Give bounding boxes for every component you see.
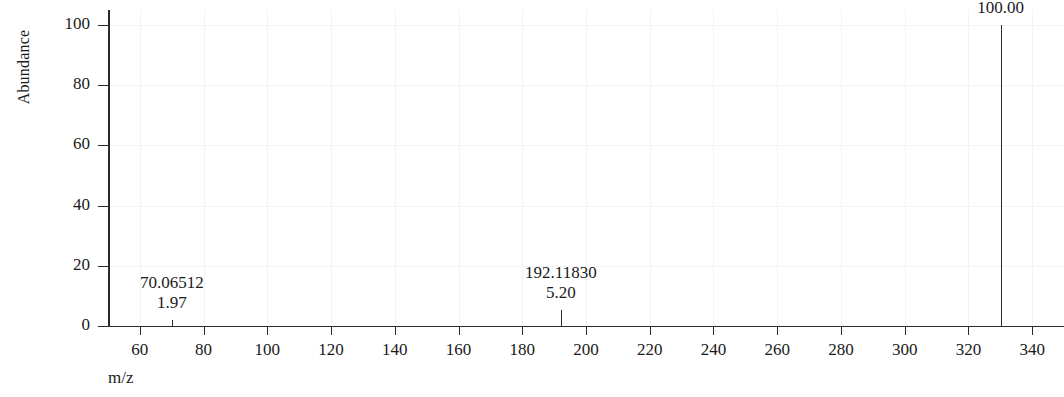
- y-axis-tick: [98, 266, 108, 267]
- x-axis-tick: [267, 326, 268, 335]
- y-axis-tick: [98, 326, 108, 327]
- x-axis-tick-label: 60: [105, 340, 175, 360]
- x-axis-title: m/z: [108, 368, 134, 388]
- x-axis-tick-label: 340: [997, 340, 1064, 360]
- x-axis-tick: [331, 326, 332, 335]
- x-axis-tick: [1032, 326, 1033, 335]
- x-axis-tick: [140, 326, 141, 335]
- y-axis-tick-label: 40: [30, 195, 90, 215]
- y-axis-tick: [98, 25, 108, 26]
- y-axis-tick: [98, 206, 108, 207]
- spectrum-peak: [1001, 25, 1002, 326]
- x-axis-tick: [777, 326, 778, 335]
- x-axis-tick: [586, 326, 587, 335]
- x-axis-tick-label: 220: [615, 340, 685, 360]
- x-axis-tick: [841, 326, 842, 335]
- y-axis-tick-label: 100: [30, 14, 90, 34]
- x-axis-tick-label: 320: [933, 340, 1003, 360]
- x-axis-tick: [204, 326, 205, 335]
- spectrum-peak: [561, 310, 562, 326]
- y-axis-tick-label: 80: [30, 74, 90, 94]
- x-axis-tick-label: 140: [360, 340, 430, 360]
- x-axis-tick: [968, 326, 969, 335]
- spectrum-peak: [172, 320, 173, 326]
- y-axis-tick-label: 0: [30, 315, 90, 335]
- mass-spectrum-chart: Abundance 020406080100 60801001201401601…: [0, 0, 1064, 397]
- x-axis-tick: [522, 326, 523, 335]
- y-axis-tick: [98, 85, 108, 86]
- peak-mz-value: 192.11830: [461, 263, 661, 283]
- x-axis-tick-label: 300: [870, 340, 940, 360]
- peak-label: 70.065121.97: [72, 273, 272, 313]
- x-axis-tick: [650, 326, 651, 335]
- y-axis-tick-label: 60: [30, 134, 90, 154]
- peak-abundance-value: 100.00: [901, 0, 1064, 18]
- x-axis-tick: [905, 326, 906, 335]
- x-axis-tick-label: 240: [678, 340, 748, 360]
- x-axis-tick: [713, 326, 714, 335]
- peak-abundance-value: 5.20: [461, 283, 661, 303]
- x-axis-tick-label: 180: [487, 340, 557, 360]
- y-axis-tick: [98, 145, 108, 146]
- y-axis-tick-label: 20: [30, 255, 90, 275]
- peak-mz-value: 70.06512: [72, 273, 272, 293]
- peak-label: 192.118305.20: [461, 263, 661, 303]
- x-axis-tick-label: 160: [424, 340, 494, 360]
- x-axis-tick-label: 100: [232, 340, 302, 360]
- x-axis-tick-label: 120: [296, 340, 366, 360]
- x-axis-tick-label: 260: [742, 340, 812, 360]
- peak-abundance-value: 1.97: [72, 293, 272, 313]
- x-axis-tick-label: 80: [169, 340, 239, 360]
- x-axis-tick: [395, 326, 396, 335]
- x-axis-tick: [459, 326, 460, 335]
- peak-label: 330.14999100.00: [901, 0, 1064, 18]
- x-axis-tick-label: 280: [806, 340, 876, 360]
- x-axis-tick-label: 200: [551, 340, 621, 360]
